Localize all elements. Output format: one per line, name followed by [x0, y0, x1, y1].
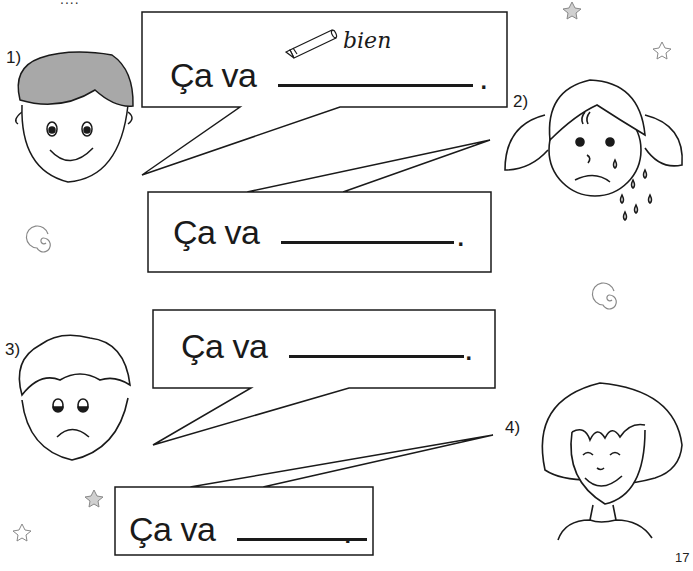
period: . — [464, 329, 473, 368]
exercise-number-4: 4) — [505, 418, 520, 438]
speech-bubble-2 — [148, 140, 491, 272]
exercise-4-prompt: Ça va — [129, 510, 367, 549]
prompt-text: Ça va — [173, 213, 259, 251]
spiral-icon — [26, 226, 50, 252]
exercise-number-3: 3) — [5, 340, 20, 360]
header-cutoff-text: .... — [60, 0, 80, 7]
face-happy-boy — [16, 52, 133, 182]
period: . — [456, 215, 465, 254]
star-icon — [13, 524, 31, 541]
answer-blank-1[interactable] — [278, 84, 473, 87]
answer-blank-2[interactable] — [281, 241, 454, 244]
face-smiling-child — [542, 383, 682, 540]
period: . — [479, 58, 488, 97]
answer-blank-3[interactable] — [289, 355, 464, 358]
page-number: 17 — [675, 550, 689, 565]
prompt-text: Ça va — [181, 327, 267, 365]
star-icon — [563, 2, 581, 19]
period: . — [343, 512, 352, 551]
spiral-icon — [592, 283, 616, 309]
exercise-number-2: 2) — [513, 92, 528, 112]
face-sad-boy — [19, 335, 130, 460]
exercise-number-1: 1) — [6, 48, 21, 68]
face-crying-girl — [505, 80, 682, 220]
exercise-2-prompt: Ça va — [173, 213, 454, 252]
prompt-text: Ça va — [170, 56, 256, 94]
exercise-1-prompt: Ça va — [170, 56, 473, 95]
exercise-3-prompt: Ça va — [181, 327, 464, 366]
example-answer: bien — [343, 28, 391, 53]
star-icon — [85, 490, 103, 507]
star-icon — [653, 42, 671, 59]
prompt-text: Ça va — [129, 510, 215, 548]
